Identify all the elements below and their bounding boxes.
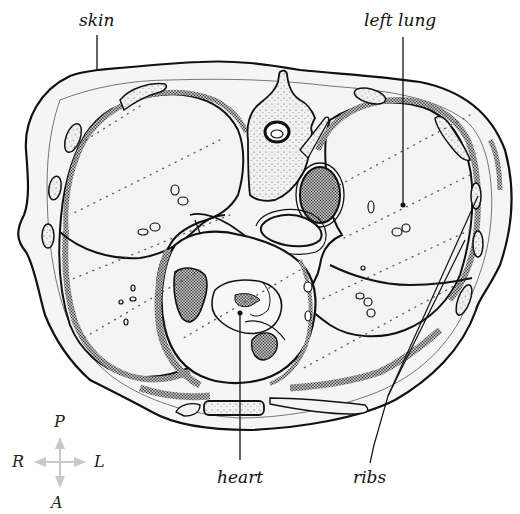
aorta [300, 167, 340, 223]
rib [471, 183, 481, 209]
left-lung-label: left lung [364, 10, 436, 30]
ribs-label: ribs [353, 467, 386, 487]
orientation-compass [34, 437, 86, 488]
orientation-right: R [12, 452, 24, 471]
thorax-cross-section [0, 0, 520, 514]
rib [473, 231, 483, 257]
rib [42, 224, 54, 248]
orientation-posterior: P [54, 412, 65, 431]
orientation-anterior: A [51, 493, 63, 512]
sternum [204, 401, 264, 415]
orientation-left: L [94, 452, 105, 471]
skin-label: skin [79, 10, 114, 30]
heart-label: heart [217, 467, 263, 487]
